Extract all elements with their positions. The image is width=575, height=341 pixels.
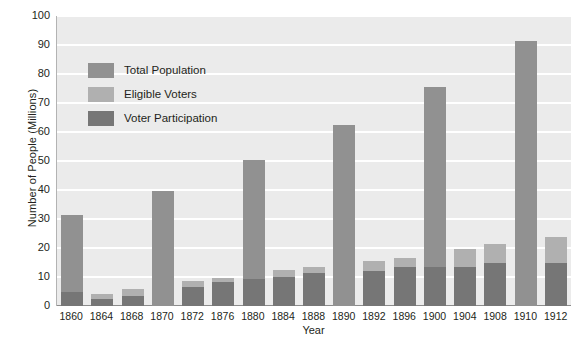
bar-group[interactable] — [454, 16, 476, 306]
legend-item[interactable]: Eligible Voters — [88, 82, 217, 106]
x-tick-label: 1872 — [177, 308, 207, 324]
x-axis-title: Year — [56, 324, 571, 336]
bar-segment-total-population — [515, 41, 537, 306]
y-tick-label: 0 — [16, 300, 50, 311]
bar-group[interactable] — [545, 16, 567, 306]
bar-chart: Number of People (Millions) 100908070605… — [0, 0, 575, 341]
bar-segment-voter-participation — [212, 282, 234, 306]
bar-segment-eligible-voters — [394, 258, 416, 267]
bar-group[interactable] — [61, 16, 83, 306]
bar-segment-eligible-voters — [545, 237, 567, 263]
bar-group[interactable] — [303, 16, 325, 306]
y-tick-label: 50 — [16, 155, 50, 166]
x-tick-label: 1908 — [480, 308, 510, 324]
bar-segment-voter-participation — [545, 263, 567, 307]
legend-item-label: Voter Participation — [124, 112, 217, 124]
y-tick-label: 30 — [16, 213, 50, 224]
bar-segment-total-population — [61, 215, 83, 292]
bar-segment-voter-participation — [122, 296, 144, 306]
y-axis-tick-labels: 1009080706050403020100 — [16, 16, 50, 306]
bar-segment-voter-participation — [484, 263, 506, 306]
bar-segment-voter-participation — [243, 279, 265, 306]
bar-segment-eligible-voters — [122, 289, 144, 296]
bar-segment-voter-participation — [363, 271, 385, 306]
x-tick-label: 1880 — [238, 308, 268, 324]
bar-segment-total-population — [243, 160, 265, 279]
bar-group[interactable] — [515, 16, 537, 306]
x-tick-label: 1860 — [56, 308, 86, 324]
x-tick-label: 1864 — [86, 308, 116, 324]
x-tick-label: 1910 — [510, 308, 540, 324]
legend-swatch-icon — [88, 63, 114, 78]
y-tick-label: 80 — [16, 68, 50, 79]
x-axis-tick-labels: 1860186418681870187218761880188418881890… — [56, 308, 571, 324]
bar-segment-total-population — [152, 191, 174, 306]
legend-item[interactable]: Total Population — [88, 58, 217, 82]
chart-legend: Total PopulationEligible VotersVoter Par… — [88, 58, 217, 130]
bar-segment-total-population — [424, 87, 446, 267]
x-tick-label: 1890 — [329, 308, 359, 324]
bar-segment-voter-participation — [303, 273, 325, 306]
bar-segment-voter-participation — [61, 292, 83, 306]
x-tick-label: 1884 — [268, 308, 298, 324]
bar-group[interactable] — [424, 16, 446, 306]
bar-group[interactable] — [243, 16, 265, 306]
bar-group[interactable] — [394, 16, 416, 306]
x-tick-label: 1912 — [541, 308, 571, 324]
bar-segment-voter-participation — [91, 299, 113, 306]
bar-group[interactable] — [333, 16, 355, 306]
x-tick-label: 1892 — [359, 308, 389, 324]
x-tick-label: 1870 — [147, 308, 177, 324]
bar-group[interactable] — [363, 16, 385, 306]
x-tick-label: 1868 — [117, 308, 147, 324]
bar-segment-voter-participation — [394, 267, 416, 306]
bar-segment-voter-participation — [454, 267, 476, 306]
y-tick-label: 20 — [16, 242, 50, 253]
bar-segment-voter-participation — [424, 267, 446, 306]
bar-group[interactable] — [273, 16, 295, 306]
legend-item-label: Total Population — [124, 64, 206, 76]
y-tick-label: 60 — [16, 126, 50, 137]
bar-segment-eligible-voters — [484, 244, 506, 263]
bar-segment-total-population — [333, 125, 355, 306]
bar-segment-eligible-voters — [363, 261, 385, 271]
bar-group[interactable] — [484, 16, 506, 306]
x-tick-label: 1876 — [208, 308, 238, 324]
legend-swatch-icon — [88, 111, 114, 126]
bar-segment-eligible-voters — [454, 249, 476, 267]
y-tick-label: 10 — [16, 271, 50, 282]
bar-segment-eligible-voters — [273, 270, 295, 277]
x-tick-label: 1896 — [389, 308, 419, 324]
y-tick-label: 90 — [16, 39, 50, 50]
y-tick-label: 70 — [16, 97, 50, 108]
y-tick-label: 100 — [16, 10, 50, 21]
bar-segment-voter-participation — [273, 277, 295, 306]
legend-swatch-icon — [88, 87, 114, 102]
legend-item[interactable]: Voter Participation — [88, 106, 217, 130]
y-tick-label: 40 — [16, 184, 50, 195]
x-tick-label: 1904 — [450, 308, 480, 324]
x-tick-label: 1888 — [298, 308, 328, 324]
bar-segment-voter-participation — [182, 287, 204, 306]
legend-item-label: Eligible Voters — [124, 88, 197, 100]
x-tick-label: 1900 — [420, 308, 450, 324]
